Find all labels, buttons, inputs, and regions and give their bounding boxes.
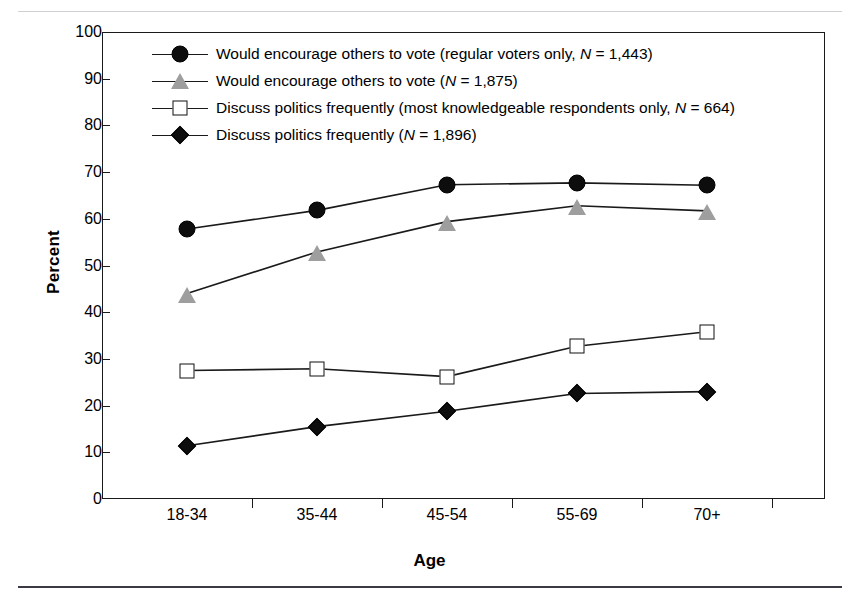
legend-item-label: Would encourage others to vote (regular … [216,45,653,63]
triangle-marker-icon [438,215,456,231]
data-point [699,177,716,194]
x-axis-tick-label: 35-44 [252,506,382,524]
legend-key-marker [172,45,189,62]
diamond-marker-icon [171,125,189,143]
y-axis-tick-mark [102,219,110,220]
y-axis-tick-mark [102,312,110,313]
circle-marker-icon [179,221,196,238]
y-axis-tick-mark [102,359,110,360]
data-point [308,244,326,260]
triangle-marker-icon [698,204,716,220]
legend-key-marker [174,128,187,141]
x-axis-tick-mark [252,499,253,508]
x-axis-tick-mark [512,499,513,508]
square-marker-icon [440,369,455,384]
legend-key-marker [171,73,189,89]
x-axis-tick-label: 18-34 [122,506,252,524]
data-point [569,174,586,191]
data-point [310,361,325,376]
legend-marker-key [152,124,208,146]
data-point [698,203,716,219]
x-axis-tick-mark [382,499,383,508]
x-axis-tick-label: 55-69 [512,506,642,524]
data-point [701,385,714,398]
circle-marker-icon [172,45,189,62]
legend-item-label: Would encourage others to vote (N = 1,87… [216,72,518,90]
square-marker-icon [173,100,188,115]
diamond-marker-icon [568,384,586,402]
circle-marker-icon [699,177,716,194]
y-axis-tick-label: 10 [46,444,102,460]
legend-item: Discuss politics frequently (N = 1,896) [152,121,752,148]
x-axis-tick-label: 45-54 [382,506,512,524]
y-axis-tick-label: 80 [46,117,102,133]
square-marker-icon [180,363,195,378]
data-point [570,339,585,354]
y-axis-tick-label: 70 [46,164,102,180]
legend-marker-key [152,97,208,119]
y-axis-tick-mark [102,172,110,173]
data-point [309,202,326,219]
triangle-marker-icon [308,245,326,261]
y-axis-tick-label: 60 [46,211,102,227]
x-axis-tick-mark [642,499,643,508]
circle-marker-icon [569,174,586,191]
triangle-marker-icon [171,73,189,89]
y-axis-tick-mark [102,125,110,126]
y-axis-tick-label: 30 [46,351,102,367]
legend-item: Would encourage others to vote (regular … [152,40,752,67]
data-point [180,363,195,378]
triangle-marker-icon [178,287,196,303]
data-point [571,387,584,400]
x-axis-tick-label: 70+ [642,506,772,524]
legend-item: Discuss politics frequently (most knowle… [152,94,752,121]
y-axis-tick-mark [102,452,110,453]
diamond-marker-icon [178,437,196,455]
y-axis-tick-label: 90 [46,71,102,87]
data-point [438,214,456,230]
top-divider-rule [18,11,842,12]
data-point [311,420,324,433]
data-point [441,405,454,418]
circle-marker-icon [309,202,326,219]
legend-item: Would encourage others to vote (N = 1,87… [152,67,752,94]
diamond-marker-icon [308,417,326,435]
y-axis-tick-label: 0 [46,491,102,507]
circle-marker-icon [439,176,456,193]
data-point [179,221,196,238]
y-axis-tick-labels: 0102030405060708090100 [38,0,102,597]
y-axis-tick-label: 40 [46,304,102,320]
x-axis-tick-mark [772,499,773,508]
data-point [700,324,715,339]
y-axis-tick-label: 20 [46,398,102,414]
y-axis-tick-label: 50 [46,258,102,274]
chart-figure: Percent 0102030405060708090100 Would enc… [0,0,859,597]
square-marker-icon [570,339,585,354]
square-marker-icon [310,361,325,376]
data-point [181,439,194,452]
diamond-marker-icon [698,382,716,400]
y-axis-tick-mark [102,79,110,80]
data-point [439,176,456,193]
y-axis-tick-label: 100 [46,24,102,40]
legend-key-marker [173,100,188,115]
triangle-marker-icon [568,199,586,215]
data-point [440,369,455,384]
legend-marker-key [152,70,208,92]
square-marker-icon [700,324,715,339]
legend-marker-key [152,43,208,65]
y-axis-tick-mark [102,406,110,407]
legend-item-label: Discuss politics frequently (N = 1,896) [216,126,477,144]
diamond-marker-icon [438,402,456,420]
data-point [178,286,196,302]
x-axis-title: Age [0,551,859,571]
y-axis-tick-mark [102,266,110,267]
chart-legend: Would encourage others to vote (regular … [152,40,752,148]
bottom-divider-rule [18,586,842,588]
data-point [568,198,586,214]
legend-item-label: Discuss politics frequently (most knowle… [216,99,735,117]
